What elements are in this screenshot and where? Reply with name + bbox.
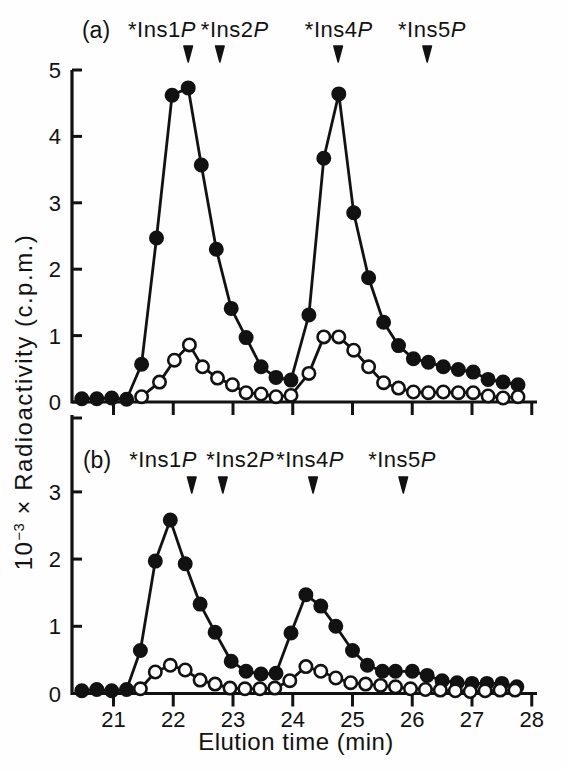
data-point-open-circle — [377, 377, 389, 389]
data-point-filled-circle — [182, 82, 194, 94]
peak-arrow-icon — [216, 46, 225, 62]
peak-label-a-ins2p: *Ins2P — [201, 17, 269, 43]
chart-canvas: 01234501232122232425262728 — [0, 0, 566, 772]
peak-label-b-ins5p: *Ins5P — [368, 447, 436, 473]
data-point-open-circle — [407, 386, 419, 398]
y-axis-title: 10−3 × Radioactivity (c.p.m.) — [10, 234, 38, 571]
data-point-open-circle — [512, 391, 524, 403]
data-point-open-circle — [224, 682, 236, 694]
peak-label-italic: P — [357, 17, 372, 42]
data-point-open-circle — [449, 685, 461, 697]
data-point-open-circle — [183, 339, 195, 351]
peak-label-text: *Ins2 — [201, 17, 254, 42]
data-point-open-circle — [179, 664, 191, 676]
data-point-filled-circle — [315, 600, 327, 612]
data-point-open-circle — [135, 391, 147, 403]
panel-a: 012345 — [49, 46, 537, 415]
data-point-filled-circle — [255, 668, 267, 680]
peak-label-text: *Ins4 — [305, 17, 358, 42]
peak-arrow-icon — [219, 477, 228, 493]
data-point-open-circle — [362, 361, 374, 373]
data-point-filled-circle — [318, 152, 330, 164]
data-point-open-circle — [467, 387, 479, 399]
data-point-filled-circle — [120, 683, 132, 695]
peak-label-b-ins1p: *Ins1P — [129, 447, 197, 473]
data-point-filled-circle — [270, 667, 282, 679]
data-point-filled-circle — [330, 620, 342, 632]
data-point-filled-circle — [482, 373, 494, 385]
data-point-open-circle — [509, 684, 521, 696]
data-point-filled-circle — [348, 207, 360, 219]
data-point-open-circle — [211, 372, 223, 384]
data-point-open-circle — [284, 675, 296, 687]
data-point-filled-circle — [300, 589, 312, 601]
panel-a-letter: (a) — [82, 17, 110, 44]
data-point-open-circle — [285, 389, 297, 401]
x-tick-label: 22 — [161, 707, 185, 732]
data-point-open-circle — [209, 678, 221, 690]
data-point-open-circle — [479, 685, 491, 697]
data-point-open-circle — [164, 659, 176, 671]
panel-b-letter: (b) — [83, 447, 111, 474]
data-point-open-circle — [374, 679, 386, 691]
data-point-filled-circle — [362, 272, 374, 284]
data-point-open-circle — [404, 683, 416, 695]
data-point-filled-circle — [76, 393, 88, 405]
peak-label-a-ins1p: *Ins1P — [128, 17, 196, 43]
data-point-filled-circle — [164, 514, 176, 526]
y-tick-label: 5 — [49, 58, 61, 83]
data-point-filled-circle — [134, 644, 146, 656]
data-point-filled-circle — [194, 598, 206, 610]
data-point-filled-circle — [225, 655, 237, 667]
y-tick-label: 3 — [49, 191, 61, 216]
data-point-open-circle — [419, 683, 431, 695]
peak-label-a-ins4p: *Ins4P — [305, 17, 373, 43]
data-point-open-circle — [315, 665, 327, 677]
data-point-filled-circle — [106, 685, 118, 697]
series-filled-circles — [76, 82, 525, 406]
data-point-filled-circle — [270, 371, 282, 383]
peak-label-italic: P — [329, 447, 344, 472]
data-point-filled-circle — [497, 376, 509, 388]
data-point-open-circle — [239, 683, 251, 695]
peak-label-text: *Ins2 — [206, 447, 259, 472]
peak-arrow-icon — [184, 46, 193, 62]
y-tick-label: 1 — [49, 614, 61, 639]
figure: 01234501232122232425262728 10−3 × Radioa… — [0, 0, 566, 772]
data-point-filled-circle — [452, 363, 464, 375]
data-point-open-circle — [300, 660, 312, 672]
data-point-filled-circle — [406, 665, 418, 677]
data-point-filled-circle — [209, 626, 221, 638]
peak-arrow-icon — [334, 46, 343, 62]
data-point-filled-circle — [467, 366, 479, 378]
y-axis-title-rest: × Radioactivity (c.p.m.) — [10, 234, 37, 523]
data-point-filled-circle — [106, 392, 118, 404]
data-point-open-circle — [240, 387, 252, 399]
peak-label-text: *Ins4 — [276, 447, 329, 472]
data-point-filled-circle — [389, 665, 401, 677]
data-point-open-circle — [196, 361, 208, 373]
data-point-filled-circle — [179, 558, 191, 570]
data-point-open-circle — [434, 684, 446, 696]
data-point-filled-circle — [166, 89, 178, 101]
peak-label-text: *Ins5 — [368, 447, 421, 472]
data-point-open-circle — [318, 331, 330, 343]
peak-arrow-icon — [309, 477, 318, 493]
data-point-filled-circle — [346, 644, 358, 656]
data-point-open-circle — [333, 331, 345, 343]
peak-label-italic: P — [259, 447, 274, 472]
y-tick-label: 4 — [49, 124, 61, 149]
x-tick-label: 27 — [460, 707, 484, 732]
data-point-filled-circle — [437, 361, 449, 373]
peak-label-italic: P — [421, 447, 436, 472]
data-point-open-circle — [254, 683, 266, 695]
x-tick-label: 21 — [101, 707, 125, 732]
y-tick-label: 0 — [49, 682, 61, 707]
data-point-open-circle — [497, 392, 509, 404]
peak-label-text: *Ins1 — [128, 17, 181, 42]
peak-label-b-ins2p: *Ins2P — [206, 447, 274, 473]
peak-label-italic: P — [451, 17, 466, 42]
data-point-open-circle — [134, 683, 146, 695]
data-point-open-circle — [452, 387, 464, 399]
x-tick-label: 28 — [520, 707, 544, 732]
